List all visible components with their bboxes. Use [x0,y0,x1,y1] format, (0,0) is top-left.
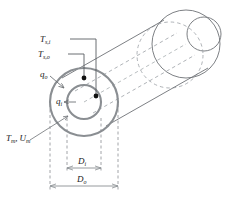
label-q-o: qo [40,69,48,80]
label-tm-um: Tm,Um [6,133,31,144]
tube-schematic-svg: Ts,i Ts,o qo qi Tm,Um Di Do [0,0,232,200]
far-end-inner-circle [187,17,221,51]
outer-surface-point [82,76,87,81]
figure-canvas: Ts,i Ts,o qo qi Tm,Um Di Do [0,0,232,200]
inner-surface-point [94,94,99,99]
far-end-hidden-bore [137,22,203,88]
label-d-o: Do [76,174,87,185]
label-ts-o: Ts,o [38,49,50,60]
label-ts-i: Ts,i [40,34,51,45]
label-d-i: Di [77,156,87,167]
